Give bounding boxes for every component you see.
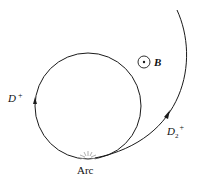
d-plus-label: D+ <box>7 91 23 104</box>
d-plus-orbit <box>35 53 141 159</box>
arc-spark-icon <box>80 151 96 159</box>
b-field-dot-icon <box>143 61 145 63</box>
trajectory-diagram: B D+ D2+ Arc <box>0 0 197 189</box>
arc-label: Arc <box>77 164 94 176</box>
field-label: B <box>153 56 161 68</box>
d2-plus-arrow-icon <box>164 110 170 119</box>
d2-plus-label: D2+ <box>166 123 184 140</box>
d-plus-arrow-icon <box>33 97 37 104</box>
